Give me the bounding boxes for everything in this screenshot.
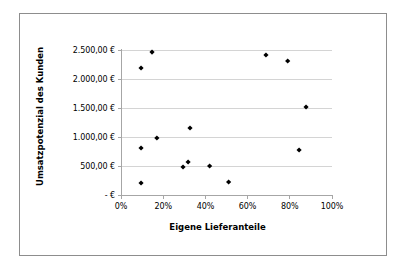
y-axis-tick-label: 2.500,00 € [48,46,115,55]
y-axis-tick-label: 500,00 € [48,162,115,171]
x-axis-tick-label: 0% [115,202,128,211]
x-axis-tick-label: 80% [281,202,298,211]
data-point [303,104,308,109]
data-points-group [138,49,308,185]
x-axis-tick-label: 60% [239,202,256,211]
data-point [138,180,143,185]
x-axis-title-text: Eigene Lieferanteile [169,222,265,232]
gridlines-group [121,50,332,195]
x-axis-tick-label: 40% [197,202,214,211]
data-point [296,147,301,152]
y-axis-tick-label: 1.000,00 € [48,133,115,142]
x-axis-tick-label: 100% [321,202,343,211]
data-point [207,163,212,168]
x-axis-ticks-group [121,195,332,199]
y-axis-title: Umsatzpotenzial des Kunden [35,47,45,186]
y-axis-tick-label: 1.500,00 € [48,104,115,113]
data-point [138,65,143,70]
data-point [285,58,290,63]
y-axis-tick-label: 2.000,00 € [48,75,115,84]
x-axis-tick-label: 20% [154,202,171,211]
data-point [154,135,159,140]
data-point [187,125,192,130]
axis-lines-group [118,49,121,196]
data-point [263,52,268,57]
data-point [185,159,190,164]
data-point [226,179,231,184]
data-point [180,164,185,169]
chart-figure: - €500,00 €1.000,00 €1.500,00 €2.000,00 … [0,0,405,274]
data-point [138,145,143,150]
x-axis-title: Eigene Lieferanteile [0,222,405,232]
y-axis-tick-label: - € [48,191,115,200]
